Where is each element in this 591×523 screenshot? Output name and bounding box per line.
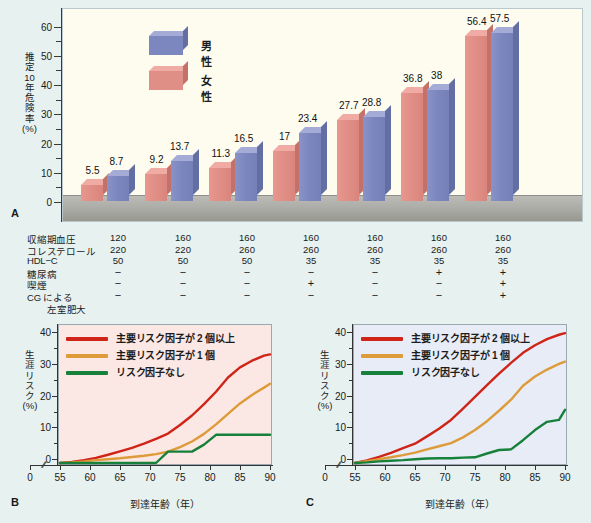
y-axis-tick (52, 427, 58, 428)
table-row: HDL−C50505035353535 (0, 255, 591, 267)
x-axis-tick (90, 465, 91, 470)
y-axis-tick-label: 40 (40, 327, 51, 338)
x-axis-tick (270, 465, 271, 470)
bar-value-label: 5.5 (86, 165, 100, 176)
panel-c-line-chart: 010203040 05560657075808590 生涯リスク(%) // … (295, 320, 591, 523)
x-axis-tick (60, 465, 61, 470)
x-axis-tick (30, 465, 31, 470)
y-axis-title-char: 涯 (22, 360, 38, 370)
bar-side-face (257, 141, 263, 195)
table-cell: − (357, 267, 393, 277)
table-row: 収縮期血圧120160160160160160160 (0, 232, 591, 244)
bar-chart-y-axis (61, 8, 62, 222)
legend-line-swatch (361, 354, 403, 358)
panel-a-bar-chart: 男性 女性 5.58.79.213.711.316.51723.427.728.… (0, 0, 591, 235)
bar-male: 8.7 (107, 176, 129, 201)
table-cell: − (100, 267, 136, 277)
x-axis-tick (535, 465, 536, 470)
table-cell: 160 (485, 232, 521, 243)
bar-male: 16.5 (235, 153, 257, 201)
x-axis-tick (385, 465, 386, 470)
panel-c-y-axis-title: 生涯リスク(%) (317, 350, 333, 412)
table-cell: − (100, 290, 136, 300)
table-cell: 160 (293, 232, 329, 243)
table-cell: 35 (421, 255, 457, 266)
bar-face (81, 185, 103, 201)
y-axis-title-char: (%) (317, 401, 333, 411)
y-axis-minor-tick (54, 443, 58, 444)
bar-value-label: 17 (279, 131, 290, 142)
table-cell: − (357, 290, 393, 300)
bar-group: 1723.4 (273, 200, 337, 201)
y-axis-tick-label: 10 (335, 422, 346, 433)
bar-group: 5.58.7 (81, 200, 145, 201)
y-axis-tick-label: 30 (41, 109, 52, 120)
x-axis-tick (565, 465, 566, 470)
panel-b-y-axis-title: 生涯リスク(%) (22, 350, 38, 412)
legend-label-female: 女性 (201, 72, 212, 104)
x-axis-tick (150, 465, 151, 470)
bar-face (273, 151, 295, 201)
bar-face (299, 133, 321, 201)
table-cell: − (293, 290, 329, 300)
bar-female: 17 (273, 151, 295, 201)
y-axis-minor-tick (54, 348, 58, 349)
x-axis-tick (325, 465, 326, 470)
risk-factor-table: 収縮期血圧120160160160160160160コレステロール2202202… (0, 232, 591, 318)
x-axis-tick-label: 90 (559, 472, 570, 483)
legend-label: 主要リスク因子が 1 個 (116, 347, 215, 362)
bar-male: 57.5 (491, 33, 513, 201)
bar-value-label: 16.5 (234, 133, 253, 144)
bar-face (107, 176, 129, 201)
x-axis-tick-label: 60 (379, 472, 390, 483)
y-axis-minor-tick (349, 380, 353, 381)
panel-b-x-axis-title: 到達年齢（年） (58, 496, 272, 511)
legend-label: 主要リスク因子が 1 個 (411, 347, 510, 362)
y-axis-tick-label: 30 (40, 359, 51, 370)
y-axis-title-char: 定 (21, 62, 38, 72)
y-axis-tick (52, 396, 58, 397)
bar-chart-y-axis-title: 推定10年危険率(%) (21, 52, 38, 134)
x-axis-tick-label: 85 (529, 472, 540, 483)
x-axis-tick-label: 85 (234, 472, 245, 483)
bar-face (145, 174, 167, 201)
y-axis-tick-label: 0 (46, 197, 52, 208)
table-cell: 260 (357, 244, 393, 255)
table-cell: 160 (229, 232, 265, 243)
y-axis-tick-label: 20 (40, 390, 51, 401)
table-cell: 160 (165, 232, 201, 243)
bar-value-label: 23.4 (298, 113, 317, 124)
table-cell: − (421, 278, 457, 288)
legend-line-swatch (361, 337, 403, 341)
legend-label: リスク因子なし (411, 364, 480, 379)
legend-line-swatch (66, 354, 108, 358)
bar-female: 36.8 (401, 93, 423, 201)
x-axis-tick (505, 465, 506, 470)
x-axis-tick-label: 55 (349, 472, 360, 483)
bar-male: 28.8 (363, 117, 385, 201)
legend-label-male: 男性 (201, 37, 212, 69)
table-cell: 260 (293, 244, 329, 255)
x-axis-tick (445, 465, 446, 470)
series-line (60, 384, 270, 463)
bar-side-face (449, 78, 455, 195)
panel-b-x-axis: 05560657075808590 (30, 465, 273, 466)
bar-face (491, 33, 513, 201)
legend-label: 主要リスク因子が 2 個以上 (116, 330, 234, 345)
x-axis-tick-label: 60 (84, 472, 95, 483)
table-cell: 50 (165, 255, 201, 266)
panel-letter-a: A (11, 207, 19, 219)
table-cell: 50 (229, 255, 265, 266)
x-axis-tick (355, 465, 356, 470)
bar-face (337, 120, 359, 201)
panel-letter-c: C (306, 496, 314, 508)
y-axis-tick-label: 10 (41, 167, 52, 178)
y-axis-title-char: (%) (22, 401, 38, 411)
y-axis-tick (52, 459, 58, 460)
bar-face (363, 117, 385, 201)
x-axis-tick (475, 465, 476, 470)
y-axis-minor-tick (349, 443, 353, 444)
table-cell: 35 (357, 255, 393, 266)
x-axis-tick-label: 0 (322, 472, 328, 483)
bar-female: 9.2 (145, 174, 167, 201)
